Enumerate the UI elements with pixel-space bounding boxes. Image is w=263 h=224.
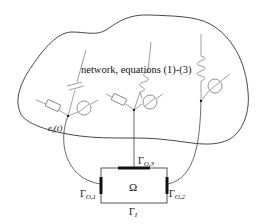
branch-1 <box>36 50 98 117</box>
gamma-o3-label: ΓO,3 <box>138 155 155 168</box>
wire-to-gamma-o1 <box>64 116 100 184</box>
network-label: network, equations (1)-(3) <box>81 64 192 76</box>
inductor-icon <box>139 72 148 92</box>
gamma-o2-label: ΓO,2 <box>169 188 186 201</box>
resistor-icon <box>111 93 127 105</box>
voltage-source-icon <box>77 101 91 115</box>
capacitor-icon <box>67 82 84 90</box>
inductor-icon <box>197 56 205 81</box>
voltage-source-icon <box>208 79 222 93</box>
network-field-coupling-diagram: network, equations (1)-(3) ei(t) Ω ΓO,3 … <box>0 0 263 224</box>
omega-label: Ω <box>129 181 137 193</box>
branch-2 <box>106 42 163 111</box>
source-label: ei(t) <box>48 123 62 134</box>
gamma-i-label: ΓI <box>129 206 138 219</box>
resistor-icon <box>45 99 61 111</box>
gamma-o1-label: ΓO,1 <box>80 188 96 201</box>
wire-to-gamma-o2 <box>168 101 201 184</box>
branch-3 <box>197 34 230 102</box>
voltage-source-icon <box>143 95 157 109</box>
